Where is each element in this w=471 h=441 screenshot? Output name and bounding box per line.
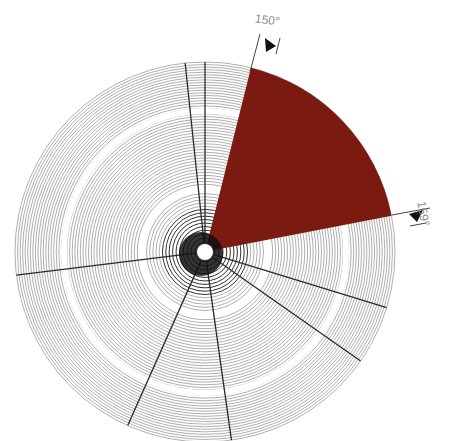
disc-diagram: 150° 159° (0, 0, 471, 441)
tick-line-start-2 (276, 38, 280, 54)
tick-line-start (250, 34, 260, 72)
center-hub (197, 244, 213, 260)
arrow-marker-start-icon (265, 38, 276, 52)
concentric-rings-figure (0, 0, 471, 441)
